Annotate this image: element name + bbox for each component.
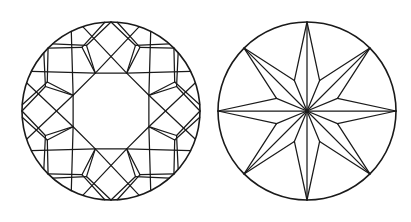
bezel-kite-edge [140, 174, 174, 175]
bezel-kite-edge [174, 140, 175, 174]
bezel-kite-edge [48, 47, 82, 48]
pavilion-view-figure [218, 22, 396, 200]
culet-point [306, 110, 309, 113]
bezel-kite-edge [47, 48, 48, 82]
bezel-kite-edge [140, 47, 174, 48]
bezel-kite-edge [48, 174, 82, 175]
brilliant-cut-diagram [0, 0, 411, 222]
bezel-kite-edge [47, 140, 48, 174]
bezel-kite-edge [174, 48, 175, 82]
